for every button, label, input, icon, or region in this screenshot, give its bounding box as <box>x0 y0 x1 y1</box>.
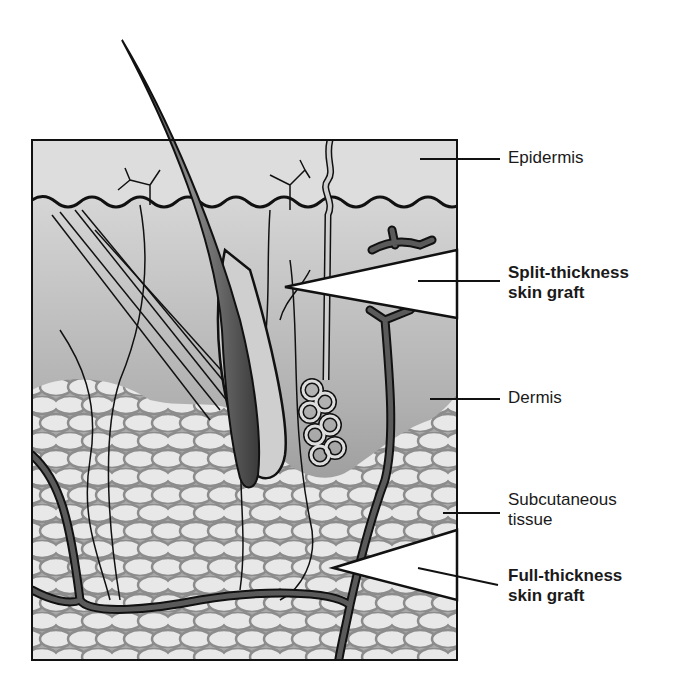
label-split-thickness-skin-graft: Split-thickness skin graft <box>508 263 629 303</box>
label-subcutaneous-tissue: Subcutaneous tissue <box>508 490 617 530</box>
label-full-thickness-skin-graft: Full-thickness skin graft <box>508 566 622 606</box>
label-dermis: Dermis <box>508 388 562 408</box>
label-epidermis: Epidermis <box>508 148 584 168</box>
